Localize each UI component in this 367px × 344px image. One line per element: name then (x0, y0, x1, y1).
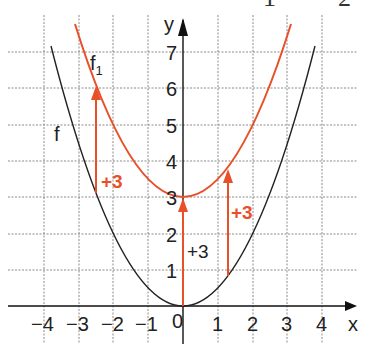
svg-text:6: 6 (166, 78, 177, 100)
header-fragment-right: 2 (338, 0, 351, 12)
svg-text:−2: −2 (101, 313, 124, 335)
label-plus3-center: +3 (187, 241, 209, 262)
svg-text:−3: −3 (66, 313, 89, 335)
svg-text:1: 1 (212, 313, 223, 335)
svg-text:4: 4 (166, 151, 177, 173)
x-tick-labels: −4 −3 −2 −1 0 1 2 3 4 (31, 310, 327, 335)
svg-text:4: 4 (316, 313, 327, 335)
svg-text:−1: −1 (135, 313, 158, 335)
x-axis-label: x (348, 313, 358, 335)
svg-text:1: 1 (166, 260, 177, 282)
graph-canvas: 1 2 f f1 +3 +3 +3 7 6 5 (0, 0, 367, 344)
label-plus3-left: +3 (101, 171, 123, 192)
header-fragment-left: 1 (263, 0, 276, 12)
y-tick-labels: 7 6 5 4 3 2 1 (166, 42, 177, 282)
svg-text:5: 5 (166, 115, 177, 137)
svg-text:2: 2 (166, 224, 177, 246)
svg-text:0: 0 (172, 310, 183, 332)
svg-text:7: 7 (166, 42, 177, 64)
svg-text:3: 3 (281, 313, 292, 335)
label-plus3-right: +3 (231, 202, 253, 223)
y-axis-label: y (164, 13, 174, 35)
svg-text:2: 2 (247, 313, 258, 335)
y-axis-arrow-icon (178, 18, 188, 36)
svg-text:3: 3 (166, 187, 177, 209)
arrow-up-icon (178, 198, 188, 212)
svg-text:−4: −4 (31, 313, 54, 335)
label-f: f (54, 123, 60, 145)
